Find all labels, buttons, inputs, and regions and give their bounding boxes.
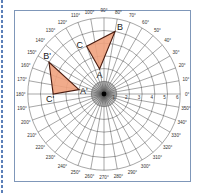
angle-label: 300° (141, 164, 151, 169)
radius-label: 4 (151, 95, 154, 100)
angle-label: 310° (153, 155, 163, 160)
origin-pole (102, 92, 107, 97)
radius-label: 1 (112, 95, 115, 100)
angle-label: 20° (179, 63, 186, 68)
vertex-label: C' (46, 94, 54, 104)
angle-label: 70° (129, 13, 136, 18)
vertex-label: B (117, 22, 123, 32)
angle-label: 240° (58, 164, 68, 169)
angle-label: 320° (163, 145, 173, 150)
angle-label: 290° (128, 170, 138, 175)
angle-label: 90° (101, 8, 108, 13)
angle-label: 190° (17, 106, 27, 111)
triangle-A-primeB-primeC-prime (49, 62, 79, 94)
angle-label: 250° (71, 170, 81, 175)
vertex-label: B' (43, 51, 51, 61)
radius-label: 3 (138, 95, 141, 100)
angle-label: 160° (21, 63, 31, 68)
angle-label: 130° (46, 28, 56, 33)
polar-grid-diagram: 0°10°20°30°40°50°60°70°80°90°100°110°120… (0, 0, 204, 193)
angle-label: 120° (58, 20, 68, 25)
angle-label: 110° (71, 13, 80, 18)
angle-label: 270° (99, 175, 109, 180)
radius-label: 6 (176, 95, 179, 100)
angle-label: 40° (164, 38, 171, 43)
angle-label: 50° (154, 28, 161, 33)
angle-label: 60° (142, 20, 149, 25)
angle-label: 340° (177, 120, 187, 125)
angle-label: 100° (85, 10, 95, 15)
radius-label: 5 (163, 95, 166, 100)
angle-label: 220° (36, 145, 46, 150)
angle-label: 150° (27, 50, 37, 55)
angle-label: 80° (115, 10, 122, 15)
radius-labels: 123456 (112, 95, 179, 100)
angle-label: 330° (171, 133, 181, 138)
angle-label: 350° (181, 106, 191, 111)
angle-label: 140° (36, 38, 46, 43)
angle-label: 280° (114, 174, 124, 179)
pole-dot (102, 92, 107, 97)
angle-label: 180° (16, 92, 26, 97)
angle-label: 200° (21, 120, 31, 125)
angle-label: 210° (27, 133, 37, 138)
angle-label: 260° (85, 174, 95, 179)
vertex-label: A (97, 70, 103, 80)
triangle-ABC (87, 31, 115, 69)
angle-label: 230° (46, 155, 56, 160)
vertex-label: C (76, 40, 83, 50)
angle-label: 10° (182, 77, 189, 82)
angle-label: 0° (185, 92, 190, 97)
angle-label: 30° (173, 50, 180, 55)
radius-label: 2 (125, 95, 128, 100)
angle-label: 170° (17, 77, 27, 82)
vertex-label: A' (80, 86, 88, 96)
